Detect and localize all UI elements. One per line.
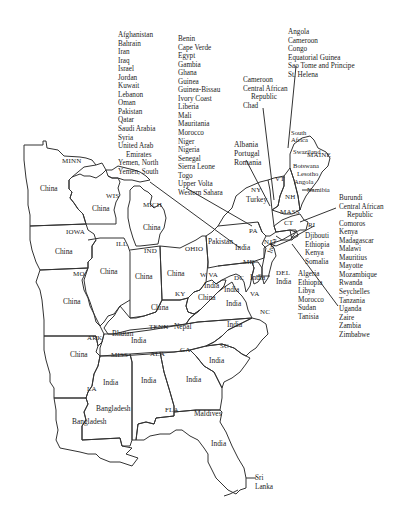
region-label-india-va: India [226, 300, 241, 308]
country-label: Kenya [339, 228, 384, 237]
region-label-namibia: Namibia [307, 186, 330, 194]
country-label: Ethiopia [298, 279, 324, 288]
country-label: Niger [178, 138, 223, 147]
country-label: Madagascar [339, 237, 384, 246]
country-label: Ghana [178, 69, 223, 78]
country-label: Mauritania [178, 120, 223, 129]
state-label-pa: PA [249, 227, 258, 235]
leader-burundi [300, 208, 336, 222]
region-label-india-dc: India [224, 286, 239, 294]
country-label: Cape Verde [178, 44, 223, 53]
country-label: Israel [118, 65, 158, 74]
country-label: Togo [178, 172, 223, 181]
country-label: St. Helena [288, 71, 355, 80]
state-label-nh: NH [285, 193, 296, 201]
country-label: Guinea [178, 78, 223, 87]
state-label-ohio: OHIO [185, 245, 203, 253]
country-label: Republic [339, 211, 384, 220]
country-label: Yemen, South [118, 168, 158, 177]
region-label-botswana: Botswana [293, 162, 319, 170]
country-label: Upper Volta [178, 180, 223, 189]
country-label: United Arab [118, 142, 158, 151]
state-label-ark: ARK [87, 334, 102, 342]
state-label-ga: GA [180, 346, 191, 354]
country-label: Sao Tome and Principe [288, 62, 355, 71]
country-label: Gambia [178, 61, 223, 70]
country-label: Morocco [298, 296, 324, 305]
country-label: Cameroon [243, 76, 288, 85]
region-label-maldives: Maldives [194, 410, 222, 418]
country-label: Liberia [178, 103, 223, 112]
country-label: Senegal [178, 155, 223, 164]
state-label-ind: IND [144, 247, 157, 255]
state-label-minn: MINN [62, 157, 81, 165]
region-label-china-minn: China [40, 185, 58, 193]
region-label-china-ind: China [135, 273, 153, 281]
state-miss-border [82, 354, 132, 446]
country-label: Sierra Leone [178, 163, 223, 172]
state-ill-border [82, 238, 130, 326]
country-label: Seychelles [339, 288, 384, 297]
state-label-mo: MO [73, 270, 85, 278]
country-label: Malawi [339, 245, 384, 254]
country-label: Ethiopia [305, 241, 329, 250]
region-label-china-mich: China [143, 224, 161, 232]
country-label: Iraq [118, 57, 158, 66]
country-label: Congo [288, 45, 355, 54]
country-label: Iran [118, 48, 158, 57]
country-label: Lebanon [118, 91, 158, 100]
state-label-wva: W VA [200, 271, 218, 279]
callout-middle-east: Afghanistan Bahrain Iran Iraq Israel Jor… [118, 31, 158, 176]
country-label: Nigeria [178, 146, 223, 155]
country-label: Zambia [339, 322, 384, 331]
state-label-dc: DC [234, 274, 244, 282]
country-label: Tanisia [298, 313, 324, 322]
region-label-turkey: Turkey [246, 196, 267, 204]
region-label-india-sc: India [209, 357, 224, 365]
country-label: Guinea-Bissau [178, 86, 223, 95]
country-label: Libya [298, 287, 324, 296]
country-label: Cameroon [288, 37, 355, 46]
region-label-south-africa: South Africa [291, 129, 308, 144]
country-label: Emirates [118, 151, 158, 160]
state-minn-border [24, 141, 96, 226]
region-label-india-fla: India [211, 440, 226, 448]
leader-cameroon-chad [263, 108, 274, 200]
region-label-india-ga: India [186, 376, 201, 384]
state-label-tenn: TENN [149, 323, 168, 331]
region-label-lesotho: Lesotho [297, 170, 318, 178]
region-label-china-ky: China [198, 294, 216, 302]
country-label: Somalia [305, 258, 329, 267]
region-label-india-pa: India [235, 244, 250, 252]
region-label-india-md: India [250, 274, 265, 282]
region-label-bangladesh-la: Bangladesh [72, 418, 106, 426]
country-label: Egypt [178, 52, 223, 61]
state-label-ny: NY [251, 186, 262, 194]
country-label: Central African [243, 85, 288, 94]
country-label: Algeria [298, 270, 324, 279]
callout-north-africa: Algeria Ethiopia Libya Morocco Sudan Tan… [298, 270, 324, 321]
state-label-iowa: IOWA [66, 228, 85, 236]
state-label-ill: ILL [116, 240, 127, 248]
country-label: Mayotte [339, 262, 384, 271]
country-label: Pakistan [118, 108, 158, 117]
state-label-del: DEL [276, 269, 290, 277]
state-label-miss: MISS [111, 351, 128, 359]
callout-europe: Albania Portugal Romania [234, 140, 261, 167]
region-label-angola: Angola [294, 178, 313, 186]
state-label-fla: FLA [165, 406, 179, 414]
country-label: Ivory Coast [178, 95, 223, 104]
callout-west-africa: Benin Cape Verde Egypt Gambia Ghana Guin… [178, 35, 223, 197]
country-label: Qatar [118, 116, 158, 125]
country-label: Western Sahara [178, 189, 223, 198]
country-label: Kenya [305, 249, 329, 258]
region-label-china-iowa: China [55, 248, 73, 256]
region-label-china-ohio: China [167, 270, 185, 278]
country-label: Benin [178, 35, 223, 44]
country-label: Djibouti [305, 232, 329, 241]
region-label-sri-lanka: Sri Lanka [255, 474, 273, 491]
country-label: Rwanda [339, 279, 384, 288]
state-label-ala: ALA [150, 350, 165, 358]
state-label-va: VA [250, 290, 260, 298]
state-ala-border [130, 352, 174, 440]
